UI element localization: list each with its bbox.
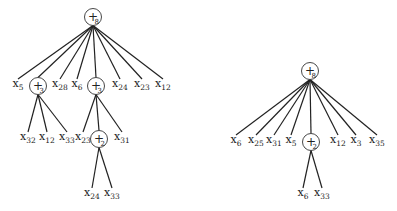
tree-edge <box>311 151 322 189</box>
variable-leaf: x23 <box>75 130 91 145</box>
operator-arity: 3 <box>98 87 102 95</box>
tree-edge <box>92 148 99 189</box>
variable-leaf: x23 <box>134 77 150 92</box>
variable-label: x33 <box>104 186 120 201</box>
variable-label: x35 <box>369 133 385 148</box>
tree-edge <box>96 95 99 131</box>
operator-node: +8 <box>302 63 319 81</box>
variable-label: x31 <box>266 133 282 148</box>
variable-leaf: x12 <box>330 133 346 148</box>
operator-arity: 2 <box>101 140 105 148</box>
variable-leaf: x6 <box>298 186 309 201</box>
variable-label: x6 <box>298 186 309 201</box>
tree-edge <box>93 26 163 80</box>
tree-edge <box>93 26 96 78</box>
operator-arity: 3 <box>40 87 44 95</box>
variable-leaf: x6 <box>231 133 242 148</box>
variable-leaf: x3 <box>351 133 362 148</box>
tree-edge <box>310 80 311 134</box>
variable-leaf: x12 <box>155 77 171 92</box>
variable-label: x25 <box>248 133 264 148</box>
tree-edge <box>99 148 112 189</box>
operator-arity: 2 <box>313 143 317 151</box>
variable-leaf: x33 <box>314 186 330 201</box>
variable-leaf: x33 <box>104 186 120 201</box>
operator-node: +3 <box>88 78 105 96</box>
variable-label: x33 <box>59 130 75 145</box>
tree-edge <box>28 95 38 133</box>
tree-edge <box>93 26 142 80</box>
tree-edge <box>93 26 120 80</box>
variable-leaf: x35 <box>369 133 385 148</box>
expression-trees: +8x5+3x28x6+3x24x23x12x32x12x33x23+2x31x… <box>0 0 397 211</box>
variable-label: x12 <box>39 130 55 145</box>
variable-leaf: x5 <box>286 133 297 148</box>
variable-leaf: x32 <box>20 130 36 145</box>
diagram-canvas: +8x5+3x28x6+3x24x23x12x32x12x33x23+2x31x… <box>0 0 397 211</box>
variable-leaf: x25 <box>248 133 264 148</box>
variable-leaf: x28 <box>52 77 68 92</box>
variable-label: x24 <box>112 77 128 92</box>
variable-leaf: x5 <box>13 77 24 92</box>
tree-edge <box>18 26 93 80</box>
operator-arity: 8 <box>95 18 99 26</box>
variable-label: x23 <box>75 130 91 145</box>
variable-label: x28 <box>52 77 68 92</box>
tree-edges <box>18 26 377 189</box>
variable-label: x5 <box>13 77 24 92</box>
tree-edge <box>310 80 356 136</box>
variable-leaf: x33 <box>59 130 75 145</box>
tree-edge <box>303 151 311 189</box>
variable-leaf: x12 <box>39 130 55 145</box>
variable-label: x6 <box>231 133 242 148</box>
variable-label: x5 <box>286 133 297 148</box>
variable-leaf: x24 <box>112 77 128 92</box>
variable-leaf: x24 <box>84 186 100 201</box>
operator-node: +2 <box>303 134 320 152</box>
variable-label: x6 <box>72 77 83 92</box>
variable-label: x23 <box>134 77 150 92</box>
variable-label: x12 <box>330 133 346 148</box>
variable-label: x31 <box>114 130 130 145</box>
variable-label: x33 <box>314 186 330 201</box>
variable-leaf: x31 <box>114 130 130 145</box>
tree-edge <box>274 80 310 136</box>
operator-node: +8 <box>85 9 102 27</box>
operator-arity: 8 <box>312 72 316 80</box>
tree-edge <box>96 95 122 133</box>
variable-label: x12 <box>155 77 171 92</box>
variable-label: x24 <box>84 186 100 201</box>
variable-leaf: x31 <box>266 133 282 148</box>
tree-edge <box>310 80 377 136</box>
tree-nodes: +8x5+3x28x6+3x24x23x12x32x12x33x23+2x31x… <box>13 9 386 201</box>
tree-edge <box>310 80 338 136</box>
variable-label: x3 <box>351 133 362 148</box>
variable-leaf: x6 <box>72 77 83 92</box>
tree-edge <box>236 80 310 136</box>
tree-edge <box>83 95 96 133</box>
variable-label: x32 <box>20 130 36 145</box>
operator-node: +3 <box>30 78 47 96</box>
operator-node: +2 <box>91 131 108 149</box>
tree-edge <box>291 80 310 136</box>
tree-edge <box>256 80 310 136</box>
